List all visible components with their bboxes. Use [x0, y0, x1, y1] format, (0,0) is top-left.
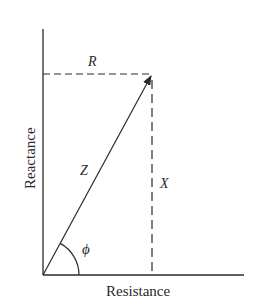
label-x: X	[159, 176, 169, 191]
y-axis-label: Reactance	[22, 127, 38, 189]
x-axis-label: Resistance	[106, 283, 170, 299]
label-z: Z	[80, 163, 88, 178]
label-phi: ϕ	[82, 241, 90, 257]
impedance-vector-arrow	[43, 76, 151, 275]
label-r: R	[87, 54, 97, 69]
phase-angle-arc	[60, 243, 79, 275]
impedance-diagram: R X Z ϕ Resistance Reactance	[0, 0, 257, 306]
